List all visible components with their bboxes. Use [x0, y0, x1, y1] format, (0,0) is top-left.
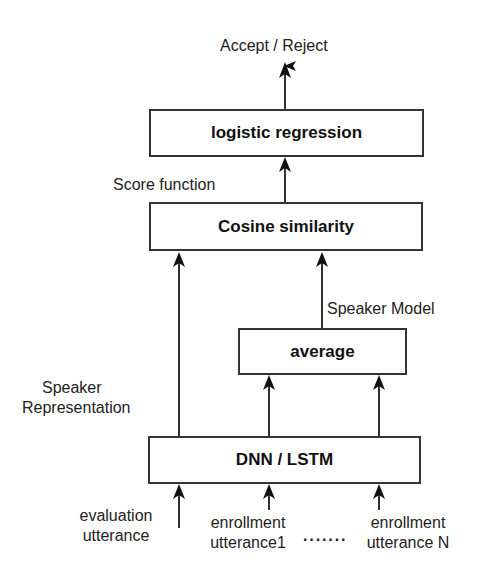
cosine-similarity-box: Cosine similarity: [149, 202, 423, 251]
logistic-regression-box: logistic regression: [149, 109, 424, 157]
ellipsis-dots: ·······: [303, 530, 347, 550]
dnn-lstm-label: DNN / LSTM: [236, 450, 333, 470]
enrollment1-line1: enrollment: [196, 513, 300, 533]
average-box: average: [238, 328, 407, 375]
connector-arrows: [0, 0, 489, 578]
cosine-similarity-label: Cosine similarity: [218, 217, 354, 237]
evaluation-line1: evaluation: [66, 506, 166, 526]
evaluation-utterance-label: evaluation utterance: [66, 506, 166, 546]
enrollment1-line2: utterance1: [196, 533, 300, 553]
speaker-representation-line1: Speaker: [22, 378, 172, 398]
enrollmentN-line1: enrollment: [350, 513, 466, 533]
average-label: average: [290, 342, 354, 362]
dnn-lstm-box: DNN / LSTM: [148, 436, 421, 484]
speaker-model-label: Speaker Model: [327, 299, 435, 319]
enrollment-utterance1-label: enrollment utterance1: [196, 513, 300, 553]
speaker-representation-label: Speaker Representation: [22, 378, 172, 418]
enrollment-utteranceN-label: enrollment utterance N: [350, 513, 466, 553]
logistic-regression-label: logistic regression: [211, 123, 362, 143]
evaluation-line2: utterance: [66, 526, 166, 546]
score-function-label: Score function: [113, 175, 215, 195]
speaker-verification-diagram: Accept / Reject logistic regression Scor…: [0, 0, 489, 578]
accept-reject-label: Accept / Reject: [220, 36, 328, 56]
enrollmentN-line2: utterance N: [350, 533, 466, 553]
speaker-representation-line2: Representation: [22, 398, 172, 418]
